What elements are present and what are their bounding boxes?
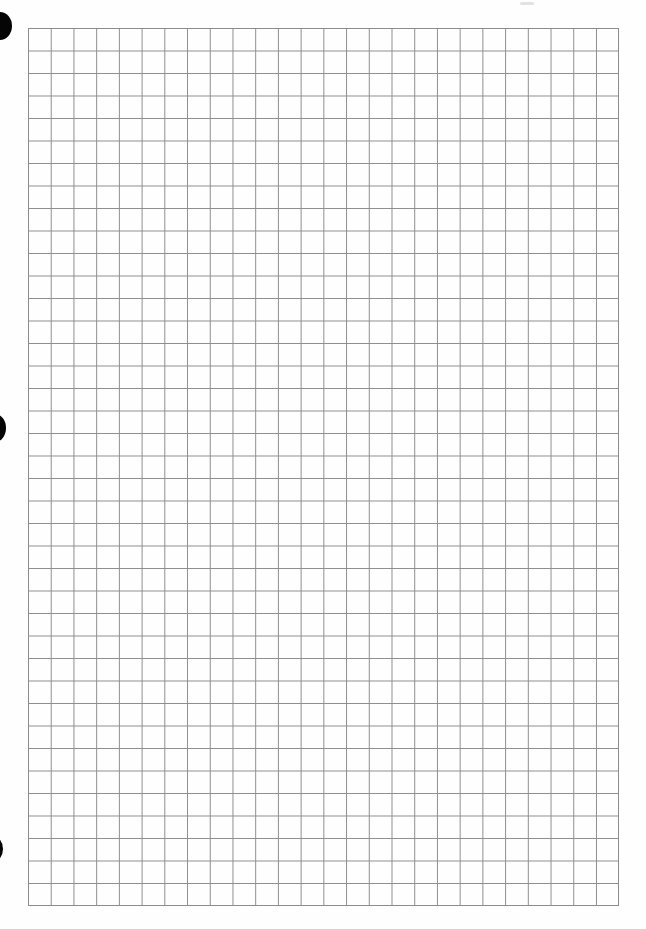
binder-hole-bottom [0,836,3,862]
binder-hole-middle [0,414,6,442]
scan-smudge [520,2,534,5]
graph-paper-page [0,0,646,929]
binder-hole-top [0,12,12,40]
graph-grid [28,28,619,906]
